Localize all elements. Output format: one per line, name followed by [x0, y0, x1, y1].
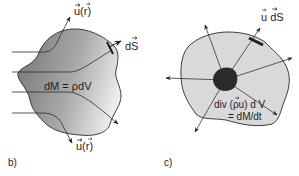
velocity-label-bottom: u(r) [76, 140, 93, 152]
velocity-label-top: u(r) [74, 5, 91, 17]
panel-c-label: c) [164, 157, 172, 168]
panel-b-label: b) [8, 157, 17, 168]
panel-c: u dS div (ρu) d V = dM/dt c) [164, 8, 292, 169]
flux-element-label: u dS [261, 11, 284, 23]
divergence-label-line1: div (ρu) d V [214, 99, 266, 110]
mass-element-label: dM = ρdV [44, 80, 92, 92]
surface-element-label: dS [125, 40, 138, 52]
control-volume-figure: u(r) dS dM = ρdV u(r) b) u dS div ( [0, 0, 299, 176]
panel-b: u(r) dS dM = ρdV u(r) b) [8, 3, 138, 168]
divergence-label-line2: = dM/dt [228, 111, 262, 122]
